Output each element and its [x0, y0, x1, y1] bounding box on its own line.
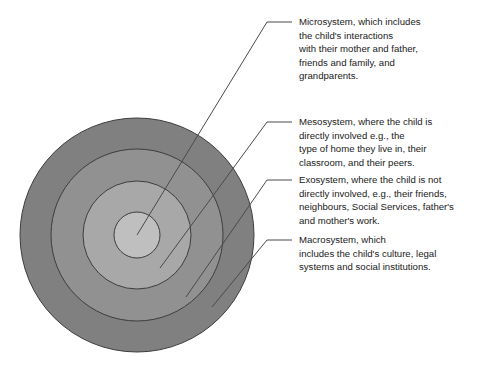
callout-macrosystem-line-1: Macrosystem, which — [299, 234, 386, 245]
callout-microsystem-line-5: grandparents. — [299, 70, 358, 81]
callout-exosystem-line-1: Exosystem, where the child is not — [299, 174, 442, 185]
callout-macrosystem-line-3: systems and social institutions. — [299, 261, 431, 272]
callout-macrosystem-line-2: includes the child's culture, legal — [299, 248, 436, 259]
callout-exosystem-line-4: and mother's work. — [299, 215, 380, 226]
callout-microsystem-line-3: with their mother and father, — [298, 43, 418, 54]
callout-mesosystem-line-4: classroom, and their peers. — [299, 157, 415, 168]
callout-exosystem-line-2: directly involved, e.g., their friends, — [299, 188, 447, 199]
callout-microsystem-line-4: friends and family, and — [299, 57, 395, 68]
callout-microsystem-line-1: Microsystem, which includes — [299, 16, 421, 27]
diagram-canvas: Microsystem, which includes the child's … — [0, 0, 484, 372]
callout-mesosystem-line-2: directly involved e.g., the — [299, 130, 405, 141]
callout-mesosystem-line-1: Mesosystem, where the child is — [299, 116, 432, 127]
callout-mesosystem-line-3: type of home they live in, their — [299, 143, 427, 154]
callout-exosystem-line-3: neighbours, Social Services, father's — [299, 201, 454, 212]
callout-microsystem-line-2: the child's interactions — [299, 30, 393, 41]
ecological-systems-diagram: Microsystem, which includes the child's … — [0, 0, 484, 372]
